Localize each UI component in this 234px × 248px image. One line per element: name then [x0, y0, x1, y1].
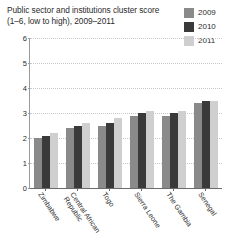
bar-2010-togo [106, 123, 114, 188]
x-axis-label-line: Zimbabwe [36, 191, 61, 223]
bar-2009-senegal [194, 103, 202, 188]
bar-2011-togo [114, 118, 122, 188]
bar-group-central-african-republic [62, 38, 94, 188]
x-axis-label-central-african-republic: Central AfricanRepublic [61, 189, 93, 247]
plot-area: 0123456 [29, 38, 222, 189]
bar-2010-the-gambia [170, 113, 178, 188]
legend-swatch-icon-2009 [184, 8, 194, 18]
bar-2009-central-african-republic [66, 128, 74, 188]
x-axis-label-togo: Togo [93, 189, 125, 247]
chart-title-line-1: Public sector and institutions cluster s… [7, 5, 185, 16]
x-axis-label-the-gambia: The Gambia [157, 189, 189, 247]
x-axis-label-text: Zimbabwe [36, 191, 61, 223]
legend-item-2010: 2010 [184, 20, 230, 33]
x-axis-tick-mark [77, 189, 78, 191]
x-axis-label-senegal: Senegal [189, 189, 221, 247]
chart-title: Public sector and institutions cluster s… [7, 5, 185, 27]
bar-2009-togo [98, 126, 106, 189]
y-axis-tick-label: 5 [23, 59, 27, 68]
bar-group-the-gambia [158, 38, 190, 188]
y-axis-tick-label: 4 [23, 84, 27, 93]
bar-2011-senegal [210, 101, 218, 189]
x-axis-label-line: Senegal [196, 191, 218, 217]
chart-figure: Public sector and institutions cluster s… [0, 0, 234, 248]
bar-groups [30, 38, 222, 188]
bar-2009-zimbabwe [34, 138, 42, 188]
x-axis-labels: ZimbabweCentral AfricanRepublicTogoSierr… [29, 189, 221, 247]
y-axis-tick-label: 6 [23, 34, 27, 43]
bar-group-zimbabwe [30, 38, 62, 188]
bar-2011-central-african-republic [82, 123, 90, 188]
bar-2010-sierra-leone [138, 113, 146, 188]
legend-item-2009: 2009 [184, 6, 230, 19]
x-axis-tick-mark [141, 189, 142, 191]
bar-group-togo [94, 38, 126, 188]
y-axis-tick-label: 2 [23, 134, 27, 143]
x-axis-tick-mark [109, 189, 110, 191]
bar-2010-zimbabwe [42, 136, 50, 189]
x-axis-label-text: Togo [100, 191, 116, 209]
legend-label-2009: 2009 [198, 8, 216, 18]
bar-2011-the-gambia [178, 111, 186, 189]
bar-group-senegal [190, 38, 222, 188]
bar-2010-central-african-republic [74, 126, 82, 189]
bar-2011-zimbabwe [50, 133, 58, 188]
y-axis-tick-label: 1 [23, 159, 27, 168]
y-axis-tick-label: 0 [23, 184, 27, 193]
x-axis-label-line: Togo [100, 191, 116, 209]
x-axis-label-sierra-leone: Sierra Leone [125, 189, 157, 247]
x-axis-label-text: Senegal [196, 191, 218, 217]
bar-2009-the-gambia [162, 116, 170, 189]
x-axis-tick-mark [45, 189, 46, 191]
x-axis-label-zimbabwe: Zimbabwe [29, 189, 61, 247]
bar-2009-sierra-leone [130, 116, 138, 189]
bar-2010-senegal [202, 101, 210, 189]
legend-label-2010: 2010 [198, 22, 216, 32]
y-axis-tick-label: 3 [23, 109, 27, 118]
bar-2011-sierra-leone [146, 111, 154, 189]
x-axis-tick-mark [173, 189, 174, 191]
legend-swatch-icon-2010 [184, 22, 194, 32]
x-axis-tick-mark [205, 189, 206, 191]
bar-group-sierra-leone [126, 38, 158, 188]
chart-title-line-2: (1–6, low to high), 2009–2011 [7, 16, 185, 27]
